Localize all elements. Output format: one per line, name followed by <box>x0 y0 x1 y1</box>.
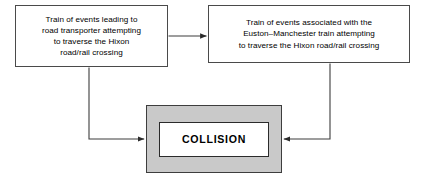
flow-diagram: Train of events leading to road transpor… <box>0 0 426 180</box>
node-euston-manchester: Train of events associated with the Eust… <box>208 5 410 63</box>
node-collision: COLLISION <box>146 105 282 173</box>
node-collision-label: COLLISION <box>182 133 246 145</box>
node-road-transporter-label: Train of events leading to road transpor… <box>39 14 144 59</box>
node-euston-manchester-label: Train of events associated with the Eust… <box>236 17 383 51</box>
edge-euston-manchester-to-collision <box>284 64 330 140</box>
node-collision-inner-panel: COLLISION <box>159 122 269 157</box>
node-road-transporter: Train of events leading to road transpor… <box>15 5 168 67</box>
edge-road-transporter-to-collision <box>89 68 144 140</box>
